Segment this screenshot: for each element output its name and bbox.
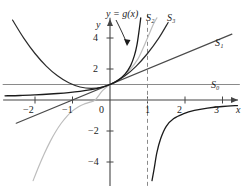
- y-tick-label-2: 2: [93, 64, 98, 74]
- x-tick-label--1: −1: [62, 105, 73, 115]
- y-tick-label-4: 4: [93, 33, 98, 43]
- y-tick-label--2: −2: [88, 126, 99, 136]
- y-axis-label: y: [96, 20, 100, 30]
- function-label-arrowhead: [124, 39, 131, 46]
- x-axis-arrowhead: [231, 97, 238, 103]
- curve-label-s1: S₁: [215, 38, 223, 48]
- function-label: y = g(x): [106, 9, 138, 19]
- graph-canvas: [0, 0, 247, 186]
- curve-gx-branch-right: [152, 106, 238, 181]
- x-axis-label: x: [236, 105, 240, 115]
- curve-s2: [13, 20, 169, 88]
- figure-container: y = g(x) y x 0 −2 −1 1 2 3 4 2 −2 −4 S₀ …: [0, 0, 247, 186]
- origin-tick-label: 0: [99, 105, 104, 115]
- curve-label-s3: S₃: [167, 13, 175, 23]
- x-tick-label-1: 1: [145, 105, 150, 115]
- curve-label-s2: S₂: [146, 13, 154, 23]
- x-tick-label--2: −2: [23, 105, 34, 115]
- x-tick-label-2: 2: [177, 105, 182, 115]
- x-tick-label-3: 3: [214, 105, 219, 115]
- curve-label-s0: S₀: [211, 80, 219, 90]
- y-tick-label--4: −4: [88, 157, 99, 167]
- y-axis-arrowhead: [107, 19, 113, 26]
